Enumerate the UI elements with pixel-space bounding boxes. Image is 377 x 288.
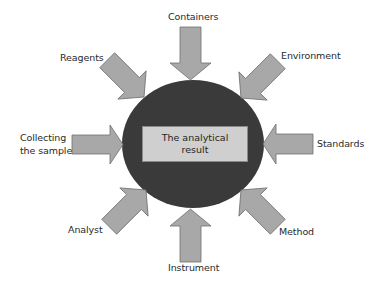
label-standards: Standards xyxy=(317,138,364,150)
label-collecting-line1: Collecting xyxy=(20,132,66,144)
label-collecting-line2: the sample xyxy=(20,145,72,157)
label-method: Method xyxy=(279,226,314,238)
arrow-instrument xyxy=(170,209,211,262)
center-label-line2: result xyxy=(182,144,209,156)
arrow-standards xyxy=(263,124,313,164)
label-containers: Containers xyxy=(168,11,218,23)
label-reagents: Reagents xyxy=(60,52,104,64)
center-label-line1: The analytical xyxy=(162,132,229,144)
label-instrument: Instrument xyxy=(168,262,219,274)
arrow-collecting-the-sample xyxy=(72,125,123,164)
analytical-result-box: The analytical result xyxy=(142,126,248,162)
label-environment: Environment xyxy=(281,50,341,62)
label-analyst: Analyst xyxy=(68,224,103,236)
arrow-containers xyxy=(170,27,211,80)
